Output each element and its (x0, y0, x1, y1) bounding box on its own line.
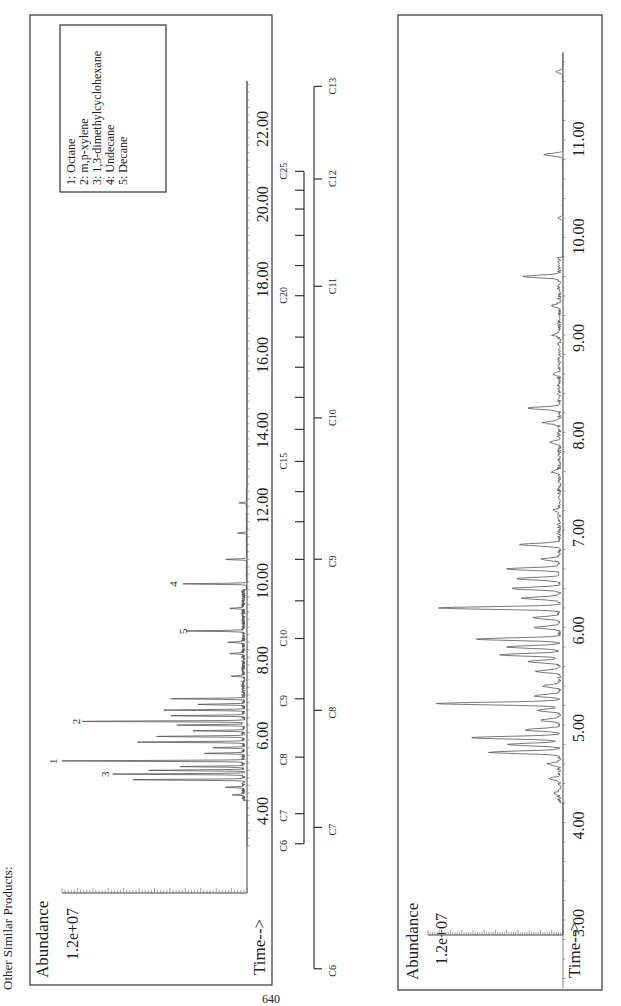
x-tick-label: 18.00 (254, 262, 271, 298)
x-tick-label: 14.00 (254, 412, 271, 448)
x-tick-label: 3.00 (570, 909, 587, 937)
y-max-label: 1.2e+07 (64, 908, 81, 960)
chart-panel-full-run: Abundance 1.2e+07 Time--> 4.006.008.0010… (30, 15, 272, 985)
page-number: 640 (262, 992, 280, 1006)
x-tick-label: 4.00 (570, 812, 587, 840)
y-max-label: 1.2e+07 (433, 913, 450, 965)
x-tick-label: 8.00 (254, 646, 271, 674)
legend-entry: 3: 1,3-dimethylcyclohexane (90, 51, 104, 185)
peak-labels: 12345 (47, 581, 189, 777)
x-tick-label: 12.00 (254, 488, 271, 524)
axes (428, 52, 566, 978)
peak-label: 5 (177, 628, 189, 634)
carbon-number-label: C8 (327, 707, 338, 719)
chromatogram-trace (62, 81, 247, 846)
carbon-number-label: C8 (278, 753, 289, 765)
x-tick-label: 10.00 (570, 219, 587, 255)
peak-label: 3 (99, 771, 111, 777)
carbon-number-scale-full-run: C6C7C8C9C10C15C20C25 (278, 163, 304, 852)
panel-frame (398, 15, 602, 990)
x-tick-label: 8.00 (570, 422, 587, 450)
peak-label: 1 (47, 758, 59, 764)
carbon-number-label: C6 (278, 840, 289, 852)
chart-panel-expanded: Abundance 1.2e+07 Time--> 3.004.005.006.… (398, 15, 602, 990)
x-tick-label: 20.00 (254, 186, 271, 222)
x-tick-label: 5.00 (570, 714, 587, 742)
x-tick-labels: 4.006.008.0010.0012.0014.0016.0018.0020.… (254, 111, 271, 825)
x-tick-label: 6.00 (570, 617, 587, 645)
carbon-number-label: C20 (278, 287, 289, 304)
carbon-number-label: C7 (327, 824, 338, 836)
legend-entry: 2: m,p-xylene (77, 118, 91, 185)
legend-entry: 1: Octane (64, 139, 78, 185)
carbon-number-label: C13 (327, 78, 338, 95)
x-tick-labels: 3.004.005.006.007.008.009.0010.0011.00 (570, 122, 587, 937)
y-axis-title: Abundance (403, 903, 422, 980)
x-tick-label: 9.00 (570, 324, 587, 352)
x-axis-title: Time--> (250, 919, 269, 975)
carbon-number-label: C9 (327, 556, 338, 568)
chromatogram-trace (437, 53, 564, 989)
carbon-number-label: C15 (278, 453, 289, 470)
peak-label: 4 (167, 581, 179, 587)
carbon-number-label: C6 (327, 965, 338, 977)
x-tick-label: 6.00 (254, 722, 271, 750)
chromatogram-figure: Other Similar Products: 640 Abundance 1.… (0, 0, 621, 1006)
peak-label: 2 (70, 719, 82, 725)
x-tick-label: 16.00 (254, 337, 271, 373)
legend: 1: Octane2: m,p-xylene3: 1,3-dimethylcyc… (60, 25, 166, 192)
carbon-number-label: C10 (278, 630, 289, 647)
carbon-number-label: C10 (327, 409, 338, 426)
carbon-number-label: C9 (278, 695, 289, 707)
y-axis-title: Abundance (33, 901, 52, 978)
carbon-number-label: C25 (278, 163, 289, 180)
legend-entry: 5: Decane (116, 137, 130, 185)
x-tick-label: 4.00 (254, 797, 271, 825)
page-heading: Other Similar Products: (0, 867, 15, 991)
document-page: Other Similar Products: 640 Abundance 1.… (0, 0, 621, 1006)
x-tick-label: 7.00 (570, 519, 587, 547)
x-tick-label: 22.00 (254, 111, 271, 147)
x-tick-label: 10.00 (254, 563, 271, 599)
carbon-number-label: C11 (327, 278, 338, 294)
carbon-number-label: C7 (278, 810, 289, 822)
carbon-number-scale-expanded: C6C7C8C9C10C11C12C13 (314, 78, 338, 977)
carbon-number-label: C12 (327, 170, 338, 187)
legend-entry: 4: Undecane (103, 125, 117, 185)
x-tick-label: 11.00 (570, 122, 587, 157)
